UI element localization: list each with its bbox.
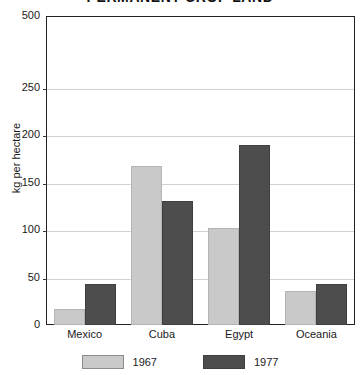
bar-cuba-1967 [131, 166, 162, 325]
x-tick-label-mexico: Mexico [46, 328, 123, 340]
y-tick-label-100: 100 [0, 224, 40, 235]
x-tick-label-cuba: Cuba [123, 328, 200, 340]
y-tick-label-50: 50 [0, 272, 40, 283]
legend-swatch-1977 [203, 355, 245, 369]
legend-label-1977: 1977 [254, 356, 278, 368]
legend-swatch-1967 [82, 355, 124, 369]
bar-mexico-1977 [85, 284, 116, 325]
y-axis-label: kg per hectare [10, 103, 22, 213]
bar-mexico-1967 [54, 309, 85, 325]
legend-item-1977[interactable]: 1977 [203, 355, 278, 369]
x-tick-label-egypt: Egypt [201, 328, 278, 340]
chart-legend: 19671977 [0, 355, 360, 369]
bar-egypt-1967 [208, 228, 239, 325]
bar-group-container [46, 16, 355, 325]
legend-label-1967: 1967 [133, 356, 157, 368]
y-tick-label-250: 250 [0, 82, 40, 93]
bar-oceania-1967 [285, 291, 316, 325]
bar-cuba-1977 [162, 201, 193, 325]
y-tick-label-0: 0 [0, 319, 40, 330]
bar-egypt-1977 [239, 145, 270, 325]
chart-figure: PERMANENT CROP LAND kg per hectare 05010… [0, 0, 360, 375]
chart-title: PERMANENT CROP LAND [0, 0, 360, 5]
y-tick-label-200: 200 [0, 129, 40, 140]
bar-oceania-1977 [316, 284, 347, 325]
y-tick-label-150: 150 [0, 177, 40, 188]
y-tick-label-500: 500 [0, 10, 40, 21]
x-tick-label-oceania: Oceania [278, 328, 355, 340]
legend-item-1967[interactable]: 1967 [82, 355, 157, 369]
